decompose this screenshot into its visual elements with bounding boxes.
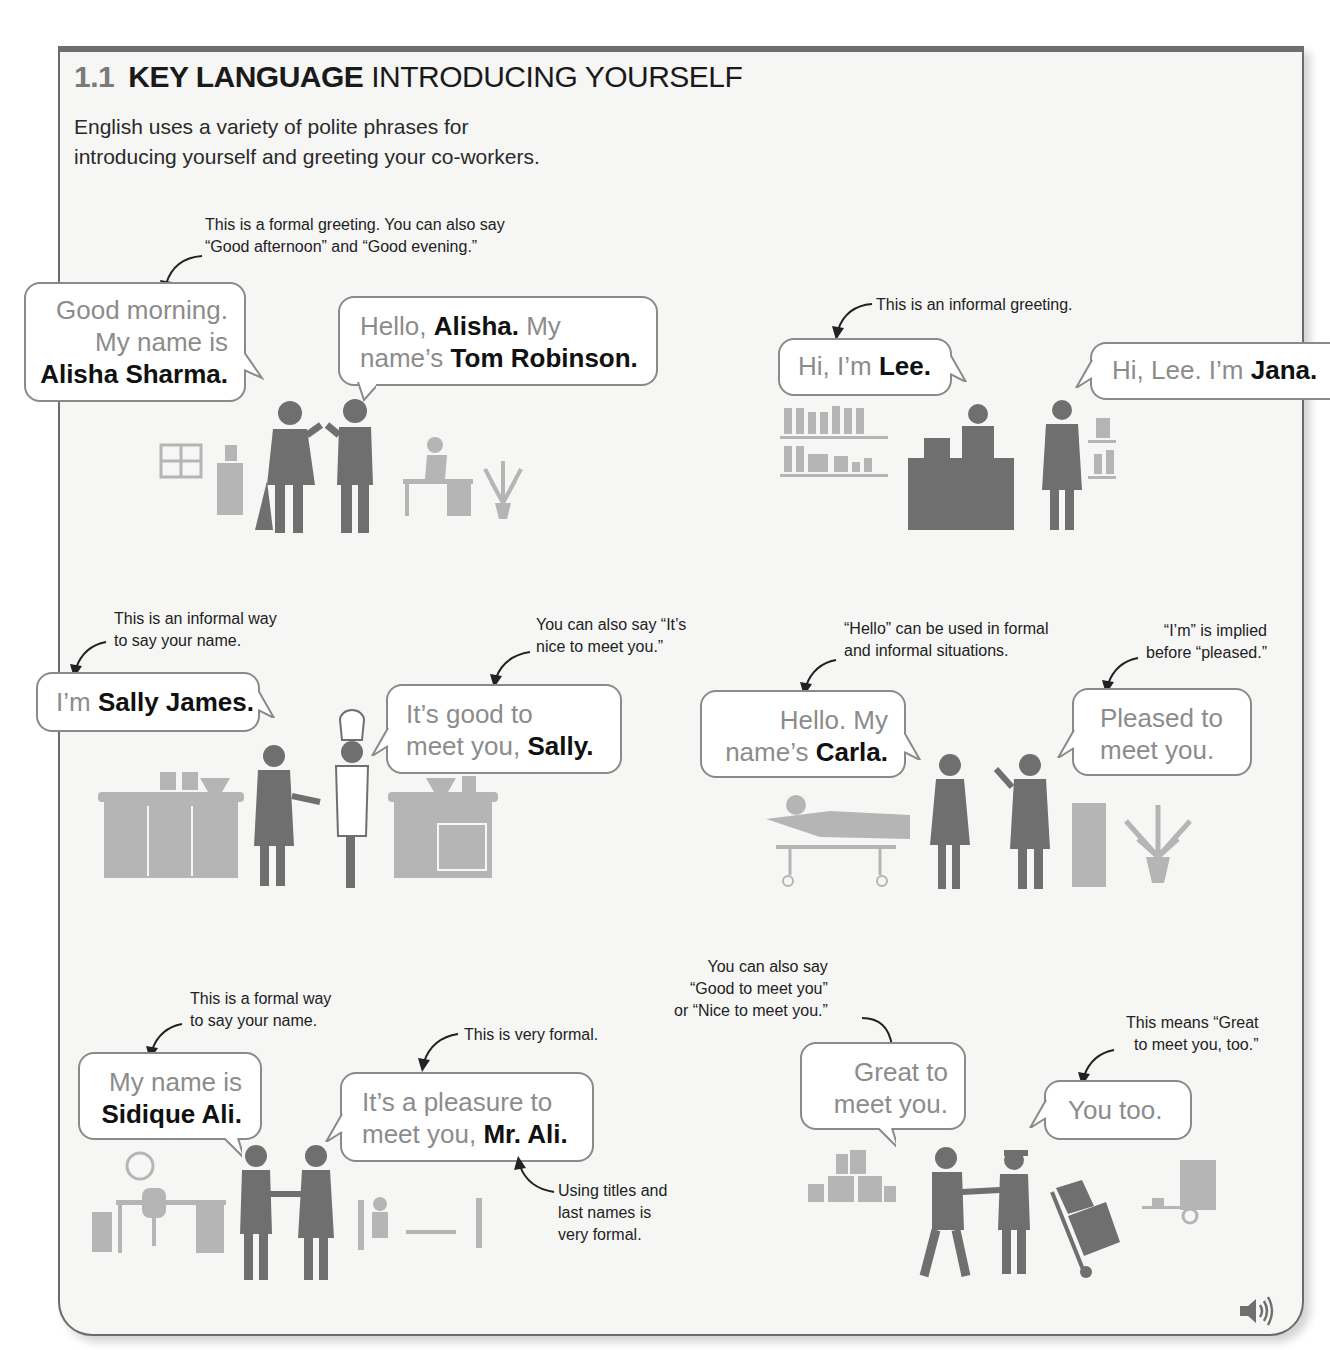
- bubble-name: Sally.: [527, 731, 593, 761]
- section-number: 1.1: [74, 60, 114, 93]
- annotation-you-too-meaning: This means “Great to meet you, too.”: [1126, 1012, 1258, 1056]
- annotation-line: This is an informal way: [114, 608, 277, 630]
- bubble-name: Alisha.: [434, 311, 519, 341]
- annotation-line: “I’m” is implied: [1146, 620, 1267, 642]
- annotation-line: and informal situations.: [844, 640, 1049, 662]
- annotation-formal-name: This is a formal way to say your name.: [190, 988, 331, 1032]
- bubble-tail: [244, 350, 264, 380]
- bubble-name: Mr. Ali.: [483, 1119, 567, 1149]
- speech-bubble-lee: Hi, I’m Lee.: [778, 338, 952, 396]
- annotation-informal-greeting: This is an informal greeting.: [876, 294, 1073, 316]
- annotation-hello-usage: “Hello” can be used in formal and inform…: [844, 618, 1049, 662]
- annotation-line: to say your name.: [190, 1010, 331, 1032]
- annotation-good-to-meet: You can also say “Good to meet you” or “…: [674, 956, 828, 1022]
- annotation-line: or “Nice to meet you.”: [674, 1000, 828, 1022]
- bubble-text: Pleased to: [1100, 702, 1224, 734]
- bubble-name: Alisha Sharma.: [40, 359, 228, 389]
- annotation-line: You can also say: [674, 956, 828, 978]
- bubble-text: Good morning.: [38, 294, 228, 326]
- annotation-line: “Good afternoon” and “Good evening.”: [205, 236, 505, 258]
- hospital-scene-illustration: [760, 745, 1200, 895]
- speech-bubble-alisha: Good morning. My name is Alisha Sharma.: [24, 282, 246, 402]
- bubble-tail: [1028, 1098, 1048, 1128]
- bubble-name: Lee.: [879, 351, 931, 381]
- bubble-tail: [1074, 358, 1094, 388]
- annotation-titles: Using titles and last names is very form…: [558, 1180, 667, 1246]
- annotation-line: Using titles and: [558, 1180, 667, 1202]
- speech-bubble-tom: Hello, Alisha. My name’s Tom Robinson.: [338, 296, 658, 386]
- annotation-im-implied: “I’m” is implied before “pleased.”: [1146, 620, 1267, 664]
- annotation-very-formal: This is very formal.: [464, 1024, 598, 1046]
- bubble-text: You too.: [1068, 1095, 1162, 1125]
- arrow-icon: [822, 298, 882, 343]
- bubble-name: Sally James.: [98, 687, 254, 717]
- annotation-line: nice to meet you.”: [536, 636, 686, 658]
- bubble-text: Great to: [818, 1056, 948, 1088]
- bubble-text: Hi, I’m: [798, 351, 879, 381]
- annotation-formal-greeting: This is a formal greeting. You can also …: [205, 214, 505, 258]
- bubble-text: name’s: [360, 343, 451, 373]
- speech-bubble-jana: Hi, Lee. I’m Jana.: [1090, 342, 1330, 400]
- formal-office-scene-illustration: [88, 1148, 508, 1283]
- bubble-text: Hi, Lee. I’m: [1112, 355, 1251, 385]
- page-title: 1.1KEY LANGUAGE INTRODUCING YOURSELF: [74, 60, 742, 94]
- annotation-informal-name: This is an informal way to say your name…: [114, 608, 277, 652]
- bubble-name: Jana.: [1251, 355, 1318, 385]
- bubble-text: It’s a pleasure to: [362, 1086, 572, 1118]
- intro-line: introducing yourself and greeting your c…: [74, 142, 634, 172]
- bubble-name: Tom Robinson.: [451, 343, 638, 373]
- bubble-name: Sidique Ali.: [101, 1099, 242, 1129]
- office-scene-illustration: [155, 395, 535, 540]
- annotation-line: You can also say “It’s: [536, 614, 686, 636]
- annotation-line: before “pleased.”: [1146, 642, 1267, 664]
- speaker-icon[interactable]: [1238, 1294, 1274, 1328]
- speech-bubble-sidique: My name is Sidique Ali.: [78, 1052, 262, 1140]
- annotation-line: very formal.: [558, 1224, 667, 1246]
- bubble-text: meet you.: [818, 1088, 948, 1120]
- annotation-line: to meet you, too.”: [1126, 1034, 1258, 1056]
- bubble-tail: [258, 688, 278, 718]
- annotation-line: last names is: [558, 1202, 667, 1224]
- bubble-text: I’m: [56, 687, 98, 717]
- bubble-text: meet you,: [362, 1119, 483, 1149]
- annotation-nice-to-meet: You can also say “It’s nice to meet you.…: [536, 614, 686, 658]
- title-bold: KEY LANGUAGE: [128, 60, 363, 93]
- bubble-tail: [324, 1112, 344, 1142]
- intro-text: English uses a variety of polite phrases…: [74, 112, 634, 172]
- intro-line: English uses a variety of polite phrases…: [74, 112, 634, 142]
- annotation-line: “Hello” can be used in formal: [844, 618, 1049, 640]
- arrow-icon: [508, 1154, 558, 1198]
- annotation-line: “Good to meet you”: [674, 978, 828, 1000]
- bubble-text: My name is: [38, 326, 228, 358]
- bubble-tail: [950, 352, 970, 382]
- shop-scene-illustration: [778, 398, 1128, 533]
- speech-bubble-you-too: You too.: [1044, 1080, 1192, 1140]
- delivery-scene-illustration: [806, 1140, 1226, 1285]
- arrow-icon: [410, 1030, 466, 1075]
- annotation-line: This is a formal greeting. You can also …: [205, 214, 505, 236]
- speech-bubble-great-to-meet: Great to meet you.: [800, 1042, 966, 1130]
- bubble-text: My name is: [98, 1066, 242, 1098]
- annotation-line: to say your name.: [114, 630, 277, 652]
- title-rest: INTRODUCING YOURSELF: [371, 60, 742, 93]
- bubble-text: Hello. My: [718, 704, 888, 736]
- bubble-text: My: [519, 311, 561, 341]
- bubble-text: Hello,: [360, 311, 434, 341]
- annotation-line: This is a formal way: [190, 988, 331, 1010]
- kitchen-scene-illustration: [96, 716, 506, 891]
- annotation-line: This means “Great: [1126, 1012, 1258, 1034]
